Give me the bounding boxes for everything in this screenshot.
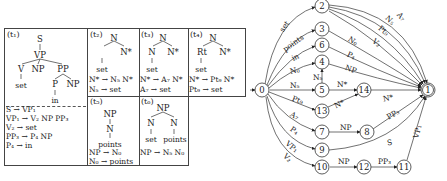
svg-text:in: in — [290, 52, 301, 63]
svg-text:9: 9 — [319, 145, 324, 155]
svg-text:10: 10 — [317, 162, 328, 172]
svg-text:N*: N* — [382, 93, 394, 104]
svg-text:V₂: V₂ — [281, 151, 294, 164]
svg-text:N₅: N₅ — [290, 81, 300, 90]
svg-text:N*: N* — [337, 80, 348, 89]
svg-text:8: 8 — [364, 127, 369, 137]
svg-text:N₀: N₀ — [346, 35, 359, 48]
svg-text:12: 12 — [359, 162, 370, 172]
svg-text:V₂: V₂ — [370, 36, 383, 49]
svg-text:5: 5 — [319, 85, 324, 95]
svg-text:14: 14 — [359, 85, 370, 95]
svg-text:2: 2 — [319, 1, 324, 11]
svg-text:VP₁: VP₁ — [411, 124, 423, 140]
svg-text:set: set — [278, 19, 292, 33]
svg-text:1: 1 — [425, 85, 430, 95]
svg-text:N₀: N₀ — [289, 65, 300, 76]
svg-text:A₇: A₇ — [288, 109, 301, 122]
svg-text:S: S — [386, 138, 393, 148]
svg-text:6: 6 — [319, 40, 324, 50]
svg-text:Pt₉: Pt₉ — [291, 94, 304, 106]
svg-text:N₅: N₅ — [313, 73, 323, 82]
svg-text:0: 0 — [259, 85, 264, 95]
svg-text:points: points — [281, 33, 305, 54]
svg-text:P₄: P₄ — [288, 125, 300, 137]
svg-text:11: 11 — [399, 162, 410, 172]
svg-text:N*: N* — [333, 98, 346, 111]
svg-text:NP: NP — [338, 157, 350, 166]
svg-text:7: 7 — [319, 127, 324, 137]
svg-text:PP₃: PP₃ — [385, 107, 401, 121]
svg-text:NP: NP — [340, 123, 352, 132]
svg-text:A₇: A₇ — [394, 10, 407, 23]
svg-text:PP₃: PP₃ — [378, 157, 391, 166]
svg-text:3: 3 — [319, 24, 324, 34]
svg-text:4: 4 — [319, 57, 324, 67]
svg-text:Pt₉: Pt₉ — [376, 24, 390, 38]
svg-text:NP: NP — [344, 63, 358, 75]
svg-text:VP₁: VP₁ — [283, 138, 300, 154]
svg-text:13: 13 — [317, 106, 328, 116]
automaton-graph: 0 1 2 3 6 4 5 14 13 7 8 9 10 12 11 set p… — [0, 0, 447, 181]
